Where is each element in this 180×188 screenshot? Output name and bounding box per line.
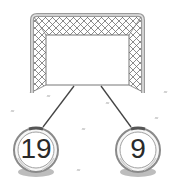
goal-icon (32, 15, 143, 93)
part-right-value: 9 (116, 135, 160, 163)
part-left-value: 19 (14, 135, 58, 163)
connector-left (43, 86, 74, 127)
connector-right (101, 86, 131, 127)
